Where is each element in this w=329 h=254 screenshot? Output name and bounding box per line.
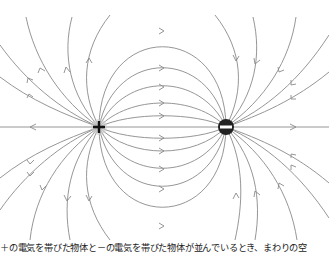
negative-charge: [218, 119, 234, 135]
positive-charge: [91, 119, 107, 135]
electric-field-diagram: [0, 0, 329, 254]
field-lines: [0, 15, 329, 240]
caption-text: ＋の電気を帯びた物体と－の電気を帯びた物体が並んでいるとき、まわりの空: [0, 241, 329, 254]
